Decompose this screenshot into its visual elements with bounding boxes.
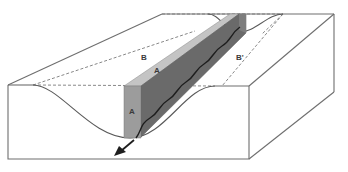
label-A-front: A [129, 107, 135, 116]
valley-block-diagram: B A B' A [0, 0, 348, 172]
bottom-right-edge [249, 92, 334, 159]
top-right-edge [249, 14, 334, 86]
label-B-prime: B' [236, 53, 244, 62]
plane-back-face [239, 14, 246, 33]
inclined-plane-A [124, 14, 246, 138]
label-B: B [141, 53, 147, 62]
flow-direction-arrow [114, 140, 134, 156]
label-A-top: A [154, 66, 160, 75]
